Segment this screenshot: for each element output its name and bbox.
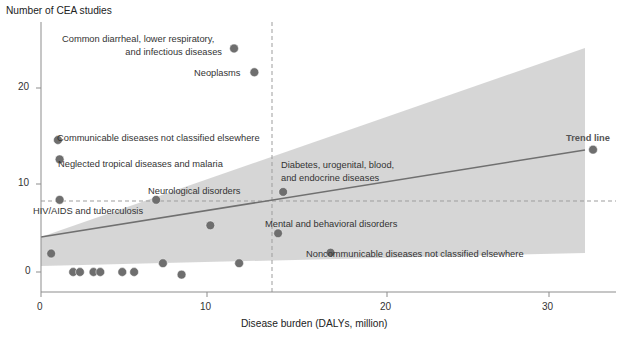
x-tick-label-20: 20 (380, 301, 391, 312)
data-point (230, 44, 239, 53)
data-point (118, 268, 127, 277)
label-hiv-aids-tb: HIV/AIDS and tuberculosis (33, 206, 143, 216)
label-diabetes-line2: and endocrine diseases (281, 173, 379, 183)
plot-canvas (0, 0, 621, 341)
y-tick-label-0: 0 (25, 265, 31, 276)
data-point (152, 195, 161, 204)
data-point (159, 259, 168, 268)
y-tick-label-10: 10 (18, 177, 29, 188)
data-point (235, 259, 244, 268)
data-point (206, 221, 215, 230)
data-point (76, 268, 85, 277)
data-point (250, 68, 259, 77)
data-point (274, 229, 283, 238)
cea-studies-scatter-chart: Number of CEA studies 20 10 0 0 10 20 30 (0, 0, 621, 341)
x-tick-label-30: 30 (542, 301, 553, 312)
label-neoplasms: Neoplasms (194, 68, 241, 78)
data-point (55, 195, 64, 204)
x-axis-title: Disease burden (DALYs, million) (241, 318, 387, 329)
label-neglected-tropical: Neglected tropical diseases and malaria (58, 159, 223, 169)
data-point (279, 188, 288, 197)
label-neurological: Neurological disorders (148, 186, 241, 196)
label-communicable: Communicable diseases not classified els… (57, 133, 260, 143)
label-trend-line: Trend line (566, 133, 610, 143)
x-tick-label-0: 0 (37, 301, 43, 312)
label-diarrheal-line1: Common diarrheal, lower respiratory, (62, 34, 214, 44)
data-point (130, 268, 139, 277)
label-diarrheal-line2: and infectious diseases (106, 47, 222, 57)
data-point (589, 145, 598, 154)
y-tick-label-20: 20 (18, 81, 29, 92)
data-point (177, 270, 186, 279)
confidence-band (41, 48, 585, 266)
label-noncommunicable: Noncommunicable diseases not classified … (306, 249, 524, 259)
label-mental-behavioral: Mental and behavioral disorders (265, 219, 397, 229)
data-point (47, 249, 56, 258)
x-tick-label-10: 10 (200, 301, 211, 312)
label-diabetes-line1: Diabetes, urogenital, blood, (281, 160, 394, 170)
data-point (96, 268, 105, 277)
